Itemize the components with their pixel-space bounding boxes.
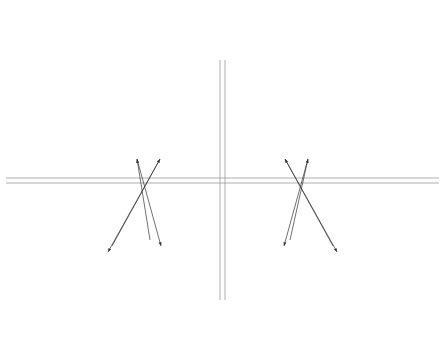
arrowhead-icon xyxy=(159,242,162,246)
tooth-organ-diagram: HerzDünndarmPankreasMagenLungeDickdarmLe… xyxy=(0,0,445,362)
arrowhead-icon xyxy=(283,242,286,246)
center-axes xyxy=(6,60,439,300)
arrow-up-right xyxy=(290,159,308,240)
arrow-down-left-hidden xyxy=(108,159,160,252)
arrow-down-right-hidden xyxy=(285,159,337,252)
arrow-down-left xyxy=(284,159,308,246)
